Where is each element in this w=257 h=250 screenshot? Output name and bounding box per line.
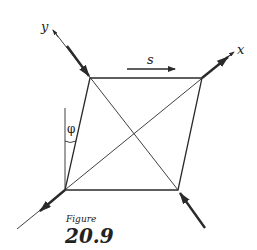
force-arrow-bottom-right-icon <box>180 193 205 228</box>
angle-arc-icon <box>65 141 76 143</box>
angle-phi-label: φ <box>67 122 75 136</box>
force-arrow-top-right-icon <box>202 57 228 78</box>
figure-caption: Figure <box>65 214 96 224</box>
x-axis-label: x <box>237 42 245 57</box>
figure-number: 20.9 <box>64 224 114 248</box>
force-arrow-bottom-left-icon <box>40 190 65 211</box>
shear-label: s <box>147 52 154 67</box>
y-axis-label: y <box>40 19 49 34</box>
force-arrow-top-left-icon <box>67 46 89 76</box>
shear-element-diagram: y x s φ Figure 20.9 <box>0 0 257 250</box>
y-axis-arrow-icon <box>53 30 58 37</box>
